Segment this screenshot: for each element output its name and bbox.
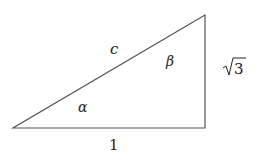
height-label: 3 xyxy=(223,58,246,78)
hypotenuse-label: c xyxy=(110,40,119,58)
base-label: 1 xyxy=(109,136,119,154)
angle-beta-label: β xyxy=(165,53,174,69)
height-radicand: 3 xyxy=(234,60,244,78)
right-triangle-diagram: c β α 1 3 xyxy=(0,0,257,156)
angle-alpha-label: α xyxy=(78,99,88,115)
triangle xyxy=(13,15,205,128)
